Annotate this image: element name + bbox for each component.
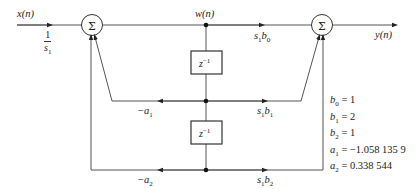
sum-right-symbol: Σ	[318, 20, 326, 33]
delay-2-label: z−1	[199, 127, 210, 139]
delay-1-label: z−1	[199, 57, 210, 69]
node-mid	[204, 99, 209, 104]
gain-b2: s1b2	[257, 175, 273, 188]
gain-a2: −a2	[137, 175, 153, 188]
parameter-list: b0 = 1 b1 = 2 b2 = 1 a1 = −1.058 135 9 a…	[330, 94, 406, 177]
gain-b0: s1b0	[254, 31, 270, 44]
param-b0: b0 = 1	[330, 94, 406, 111]
gain-b1: s1b1	[257, 106, 273, 119]
node-bottom	[204, 168, 209, 173]
param-a1: a1 = −1.058 135 9	[330, 144, 406, 161]
state-label: w(n)	[195, 9, 214, 20]
input-label: x(n)	[17, 9, 34, 20]
input-scale: 1 s1	[44, 30, 51, 56]
param-a2: a2 = 0.338 544	[330, 160, 406, 177]
output-label: y(n)	[375, 30, 392, 41]
param-b1: b1 = 2	[330, 111, 406, 128]
gain-a1: −a1	[137, 106, 153, 119]
param-b2: b2 = 1	[330, 127, 406, 144]
sum-left-symbol: Σ	[88, 20, 96, 33]
node-w	[204, 23, 209, 28]
